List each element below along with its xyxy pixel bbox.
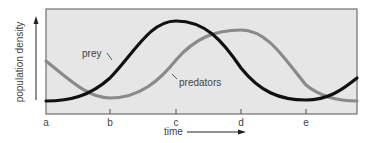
x-axis-arrowhead-icon [238,130,246,135]
predators-label: predators [179,77,221,88]
x-axis-label: time [164,126,183,137]
predator-prey-diagram: a b c d e time population density prey p… [0,0,372,143]
prey-label: prey [82,48,101,59]
y-axis-label: population density [14,22,25,103]
tick-label-b: b [107,117,113,128]
plot-area [46,9,357,114]
tick-label-a: a [43,117,49,128]
tick-label-d: d [238,117,244,128]
tick-label-e: e [303,117,309,128]
y-axis-arrowhead-icon [34,16,39,24]
